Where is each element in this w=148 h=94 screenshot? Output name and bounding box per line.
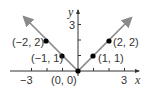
point-label-neg1-1: (−1, 1) [31,52,63,64]
point-label-2-2: (2, 2) [113,36,139,48]
x-tick-label-3: 3 [121,74,127,86]
point-label-origin: (0, 0) [51,74,77,86]
point-label-1-1: (1, 1) [98,52,124,64]
point-label-neg2-2: (−2, 2) [12,36,44,48]
x-tick-label-neg3: −3 [20,74,33,86]
point-neg2-2 [43,38,48,43]
y-axis-label: y [67,5,74,19]
graph-absolute-value: y x 3 −3 3 (−2, 2) (−1, 1) (0, 0) (1, 1)… [0,0,148,94]
point-2-2 [106,38,111,43]
point-origin [75,68,80,73]
point-1-1 [90,53,95,58]
y-tick-label-3: 3 [69,19,75,31]
x-axis-label: x [134,73,141,87]
